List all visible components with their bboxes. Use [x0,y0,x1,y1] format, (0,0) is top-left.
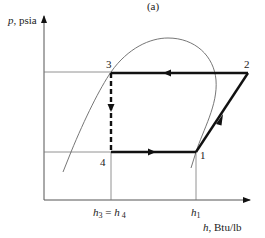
arrow-down-icon [108,104,115,112]
y-axis: p, psia [7,14,44,200]
state-label-3: 3 [106,58,112,70]
guide-lines [44,72,196,200]
panel-label: (a) [147,0,160,13]
tick-label-h1: h1 [191,206,201,220]
process-1-2 [196,73,248,152]
cycle [108,70,249,156]
x-axis-label: h, Btu/lb [203,221,242,233]
arrow-left-icon [163,70,171,77]
y-axis-label: p, psia [7,14,37,26]
tick-label-h3-h4: h3 = h4 [93,206,126,220]
x-axis: h, Btu/lb [44,200,250,233]
arrow-right-icon [148,149,156,156]
state-label-2: 2 [244,58,250,70]
state-label-1: 1 [200,149,206,161]
state-label-4: 4 [100,156,106,168]
ph-diagram: (a) p, psia h, Btu/lb 3 2 1 4 h3 = h4 h1 [0,0,265,238]
